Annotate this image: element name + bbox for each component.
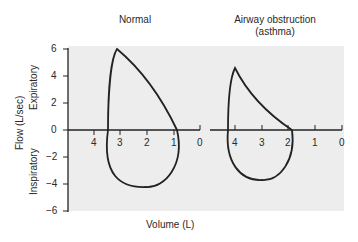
x-tick-label: 3 (117, 137, 123, 148)
x-tick-label: 3 (259, 137, 265, 148)
y-axis-label-inspiratory: Inspiratory (28, 148, 39, 195)
x-tick-label: 1 (171, 137, 177, 148)
panel-title-normal: Normal (105, 14, 165, 26)
y-ticks (63, 49, 68, 211)
y-tick-label: −4 (46, 178, 57, 189)
x-axis-label: Volume (L) (146, 219, 194, 230)
y-tick-label: −2 (46, 151, 57, 162)
x-tick-label: 1 (312, 137, 318, 148)
x-tick-label: 2 (144, 137, 150, 148)
panel-subtitle-asthma: (asthma) (215, 26, 335, 38)
x-tick-label: 2 (285, 137, 291, 148)
x-tick-label: 0 (339, 137, 345, 148)
y-tick-label: 2 (51, 97, 57, 108)
panel-title-asthma: Airway obstruction (215, 14, 335, 26)
y-tick-label: 4 (51, 70, 57, 81)
x-tick-label: 0 (197, 137, 203, 148)
y-tick-label: −6 (46, 205, 57, 216)
y-tick-label: 6 (51, 43, 57, 54)
x-tick-label: 4 (91, 137, 97, 148)
y-axis-label: Flow (L/sec) (14, 96, 25, 150)
y-axis-label-expiratory: Expiratory (28, 65, 39, 110)
y-tick-label: 0 (51, 124, 57, 135)
plot-background (68, 46, 344, 211)
x-tick-label: 4 (232, 137, 238, 148)
